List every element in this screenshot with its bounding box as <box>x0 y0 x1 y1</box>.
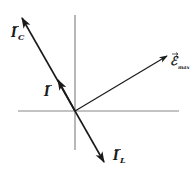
label-i: I <box>43 85 52 99</box>
vector-i <box>58 80 75 111</box>
label-i-l: I L <box>112 149 126 165</box>
label-i-c: I C <box>10 26 25 42</box>
label-text: I <box>112 149 119 163</box>
label-text: I <box>43 85 50 99</box>
vector-i-l <box>75 111 104 162</box>
phasor-diagram: I C I I L ℰ max <box>0 0 192 170</box>
label-e-max: ℰ max <box>170 53 191 71</box>
label-subscript: L <box>119 155 126 165</box>
label-subscript: C <box>18 32 25 42</box>
label-subscript: max <box>178 64 191 70</box>
vector-e-max <box>75 56 167 111</box>
label-text: I <box>10 26 17 40</box>
